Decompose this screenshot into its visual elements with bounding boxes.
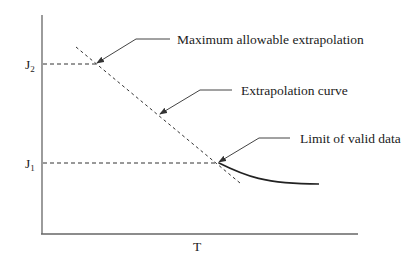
extrapolation-diagram: Maximum allowable extrapolation Extrapol…	[0, 0, 419, 264]
j2-label: J2	[25, 57, 35, 74]
extrapolation-curve-label: Extrapolation curve	[241, 83, 348, 98]
x-axis-label: T	[193, 239, 202, 254]
valid-data-curve	[219, 163, 319, 184]
extrapolation-curve-leader	[160, 90, 232, 114]
max-extrapolation-leader	[97, 39, 170, 63]
limit-valid-data-leader	[219, 138, 290, 162]
limit-valid-data-label: Limit of valid data	[300, 131, 401, 146]
max-extrapolation-label: Maximum allowable extrapolation	[177, 32, 364, 47]
j1-label: J1	[25, 156, 35, 173]
